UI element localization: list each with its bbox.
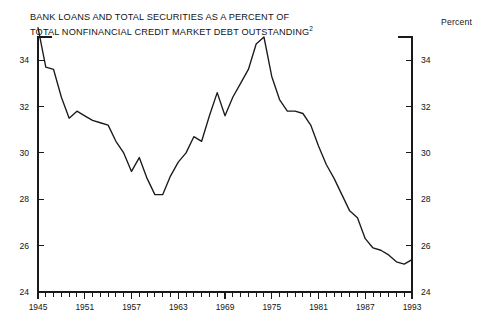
chart-tick-marks (38, 60, 412, 299)
y-axis-label-right: 24 (421, 287, 431, 297)
chart-plot-area: 242426262828303032323434 194519511957196… (0, 0, 483, 325)
y-axis-label-left: 32 (19, 102, 29, 112)
x-axis-label: 1969 (216, 302, 235, 312)
y-axis-label-right: 26 (421, 241, 431, 251)
x-axis-label: 1957 (122, 302, 141, 312)
x-axis-label: 1981 (309, 302, 328, 312)
chart-series-lines (38, 28, 412, 264)
x-axis-label: 1987 (356, 302, 375, 312)
y-axis-label-right: 34 (421, 55, 431, 65)
x-axis-tick-labels: 194519511957196319691975198119871993 (29, 302, 422, 312)
x-axis-label: 1993 (403, 302, 422, 312)
y-axis-label-left: 30 (19, 148, 29, 158)
y-axis-label-left: 34 (19, 55, 29, 65)
x-axis-label: 1951 (75, 302, 94, 312)
series-line (38, 28, 412, 264)
y-axis-label-right: 32 (421, 102, 431, 112)
y-axis-tick-labels: 242426262828303032323434 (19, 55, 430, 297)
x-axis-label: 1963 (169, 302, 188, 312)
chart-axes (38, 37, 412, 292)
y-axis-label-left: 26 (19, 241, 29, 251)
chart-figure: BANK LOANS AND TOTAL SECURITIES AS A PER… (0, 0, 483, 325)
y-axis-label-left: 24 (19, 287, 29, 297)
y-axis-label-right: 30 (421, 148, 431, 158)
y-axis-label-right: 28 (421, 194, 431, 204)
x-axis-label: 1975 (262, 302, 281, 312)
x-axis-label: 1945 (29, 302, 48, 312)
y-axis-label-left: 28 (19, 194, 29, 204)
